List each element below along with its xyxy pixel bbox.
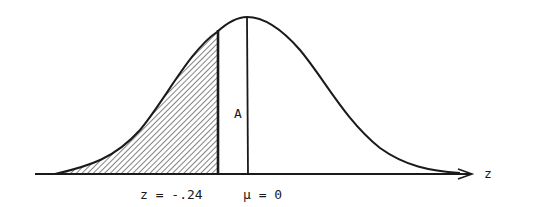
mean-label: μ = 0	[243, 187, 282, 202]
z-axis-label: z	[484, 166, 492, 181]
boundary-label: z = -.24	[140, 187, 203, 202]
normal-curve-diagram: A z z = -.24 μ = 0	[0, 0, 550, 207]
area-label: A	[234, 106, 242, 121]
shaded-tail-region	[55, 32, 217, 174]
bell-curve	[55, 17, 460, 174]
mean-line	[247, 17, 248, 175]
